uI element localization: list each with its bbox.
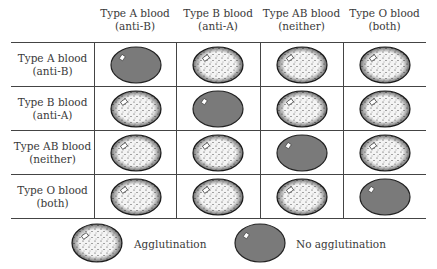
- non-agglutinated-cell-icon: [358, 177, 412, 217]
- column-header-label: Type B blood: [176, 7, 260, 20]
- row-label-sub: (anti-B): [11, 65, 94, 78]
- row-label-text: Type B blood: [11, 96, 94, 109]
- column-header-type-b: Type B blood (anti-A): [176, 7, 260, 33]
- agglutinated-cell: [344, 131, 426, 175]
- agglutinated-cell: [95, 87, 177, 131]
- row-label-text: Type AB blood: [11, 140, 94, 153]
- column-header-type-a: Type A blood (anti-B): [94, 7, 176, 33]
- row-label-sub: (anti-A): [11, 109, 94, 122]
- legend-no-agglutination-swatch: [233, 222, 287, 268]
- column-header-label: Type O blood: [343, 7, 426, 20]
- agglutinated-cell-icon: [191, 177, 245, 217]
- legend-agglutination-label: Agglutination: [134, 238, 206, 250]
- row-label-type-b: Type B blood (anti-A): [11, 96, 94, 122]
- column-header-sub: (both): [343, 20, 426, 33]
- agglutinated-cell-icon: [358, 133, 412, 173]
- non-agglutinated-cell: [261, 131, 343, 175]
- row-label-sub: (both): [11, 197, 94, 210]
- column-header-sub: (neither): [260, 20, 343, 33]
- agglutinated-cell-icon: [109, 177, 163, 217]
- non-agglutinated-cell: [95, 43, 177, 87]
- row-label-text: Type A blood: [11, 52, 94, 65]
- row-label-sub: (neither): [11, 153, 94, 166]
- agglutinated-cell-icon: [70, 222, 124, 264]
- agglutinated-cell-icon: [109, 89, 163, 129]
- agglutinated-cell: [344, 87, 426, 131]
- legend-no-agglutination-label: No agglutination: [296, 238, 386, 250]
- column-header-type-o: Type O blood (both): [343, 7, 426, 33]
- non-agglutinated-cell: [177, 87, 259, 131]
- agglutinated-cell: [95, 175, 177, 219]
- non-agglutinated-cell-icon: [233, 222, 287, 264]
- agglutinated-cell: [177, 43, 259, 87]
- agglutinated-cell-icon: [358, 89, 412, 129]
- agglutinated-cell: [177, 175, 259, 219]
- row-label-text: Type O blood: [11, 184, 94, 197]
- agglutinated-cell: [261, 87, 343, 131]
- agglutinated-cell-icon: [275, 177, 329, 217]
- row-label-type-ab: Type AB blood (neither): [11, 140, 94, 166]
- row-label-type-a: Type A blood (anti-B): [11, 52, 94, 78]
- row-label-type-o: Type O blood (both): [11, 184, 94, 210]
- legend-agglutination-swatch: [70, 222, 124, 268]
- agglutinated-cell-icon: [191, 133, 245, 173]
- agglutinated-cell-icon: [109, 133, 163, 173]
- agglutinated-cell-icon: [191, 45, 245, 85]
- agglutinated-cell-icon: [358, 45, 412, 85]
- non-agglutinated-cell-icon: [275, 133, 329, 173]
- agglutinated-cell: [177, 131, 259, 175]
- agglutinated-cell: [95, 131, 177, 175]
- non-agglutinated-cell: [344, 175, 426, 219]
- agglutinated-cell: [344, 43, 426, 87]
- agglutinated-cell: [261, 175, 343, 219]
- agglutinated-cell: [261, 43, 343, 87]
- column-header-label: Type A blood: [94, 7, 176, 20]
- agglutinated-cell-icon: [275, 45, 329, 85]
- agglutinated-cell-icon: [275, 89, 329, 129]
- column-header-sub: (anti-A): [176, 20, 260, 33]
- column-header-label: Type AB blood: [260, 7, 343, 20]
- non-agglutinated-cell-icon: [191, 89, 245, 129]
- column-header-sub: (anti-B): [94, 20, 176, 33]
- non-agglutinated-cell-icon: [109, 45, 163, 85]
- column-header-type-ab: Type AB blood (neither): [260, 7, 343, 33]
